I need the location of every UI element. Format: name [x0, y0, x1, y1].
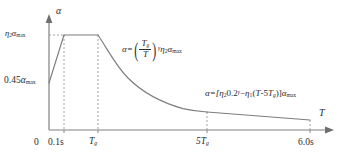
eq-decay-lhs: α= — [122, 44, 133, 54]
x-tick-label-5tg: 5Tg — [196, 137, 209, 147]
eq-linear-minus5: -5 — [260, 88, 268, 98]
right-paren: ) — [153, 40, 157, 60]
equation-power-decay: α=(TgT)γη2αmax — [122, 40, 182, 60]
equation-linear-decay: α=[η20.2γ−η1(T-5Tg)]αmax — [205, 89, 296, 99]
left-paren: ( — [134, 40, 138, 60]
fraction-denominator: T — [139, 49, 151, 59]
x-axis-arrowhead — [325, 127, 334, 134]
eq-linear-alpha-sub: max — [286, 92, 296, 98]
y-axis-label: α — [56, 6, 61, 16]
y-axis-arrowhead — [46, 14, 53, 23]
axes-group — [49, 20, 328, 130]
x-tick-label-zero: 0 — [34, 138, 39, 148]
num-sub: g — [147, 42, 150, 48]
y-tick-label-045-alpha-max: 0.45αmax — [4, 76, 36, 86]
fraction-numerator: Tg — [139, 39, 151, 49]
x-tick-label-tg: Tg — [89, 137, 97, 147]
alpha-subscript: max — [16, 32, 25, 38]
eq-linear-const: 0.2 — [227, 88, 238, 98]
eq-linear-lhs: α=[ — [205, 88, 219, 98]
chart-canvas — [0, 0, 339, 160]
curve-segment-linear-decay — [207, 112, 310, 120]
alpha-subscript-045: max — [26, 79, 36, 85]
curve-segment-rise — [49, 35, 64, 83]
response-spectrum-chart: α T η2αmax 0.45αmax 0 0.1s Tg 5Tg 6.0s α… — [0, 0, 339, 160]
tg-subscript: g — [94, 140, 97, 146]
value-045: 0.45 — [4, 75, 21, 85]
y-tick-label-eta2-alpha-max: η2αmax — [5, 29, 25, 38]
x-tick-label-60s: 6.0s — [298, 138, 314, 148]
five-tg-main: 5T — [196, 136, 206, 146]
five-tg-subscript: g — [206, 140, 209, 146]
x-axis-label: T — [319, 108, 325, 118]
x-tick-label-01s: 0.1s — [48, 138, 64, 148]
eq-decay-alpha-sub: max — [172, 48, 182, 54]
fraction-tg-over-t: TgT — [139, 39, 151, 59]
